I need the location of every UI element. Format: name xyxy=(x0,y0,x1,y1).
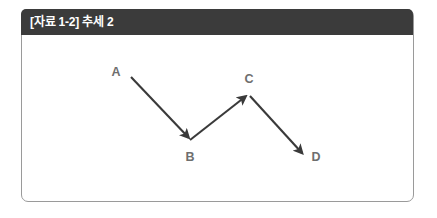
trend-diagram: A B C D xyxy=(21,35,414,202)
figure-caption-text: [자료 1-2] 추세 2 xyxy=(21,16,113,28)
segment-a-to-b xyxy=(131,77,189,138)
point-label-c: C xyxy=(244,73,253,86)
figure-caption-bar: [자료 1-2] 추세 2 xyxy=(21,9,413,35)
point-label-d: D xyxy=(311,151,320,164)
trend-polyline-svg xyxy=(21,35,414,202)
segment-b-to-c xyxy=(190,97,246,141)
point-label-b: B xyxy=(185,151,194,164)
figure-root: [자료 1-2] 추세 2 A B C D xyxy=(0,0,437,218)
segment-c-to-d xyxy=(250,96,302,153)
point-label-a: A xyxy=(111,66,120,79)
